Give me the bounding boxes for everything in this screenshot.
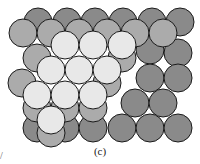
- stray-mark: /: [0, 150, 3, 161]
- sphere-packing-diagram: [0, 0, 200, 164]
- sphere-light: [51, 81, 79, 109]
- sphere-dark: [164, 114, 192, 142]
- sphere-light: [79, 81, 107, 109]
- sphere-light: [37, 106, 65, 134]
- sphere-medium: [9, 19, 37, 47]
- sphere-dark: [164, 64, 192, 92]
- sphere-light: [37, 56, 65, 84]
- sphere-dark: [136, 114, 164, 142]
- sphere-light: [79, 31, 107, 59]
- figure-caption: (c): [88, 145, 112, 157]
- sphere-light: [108, 31, 136, 59]
- sphere-dark: [121, 89, 149, 117]
- sphere-light: [65, 56, 93, 84]
- sphere-dark: [149, 89, 177, 117]
- sphere-dark: [136, 64, 164, 92]
- sphere-medium: [149, 19, 177, 47]
- sphere-dark: [108, 114, 136, 142]
- sphere-light: [93, 56, 121, 84]
- sphere-light: [23, 81, 51, 109]
- sphere-light: [51, 31, 79, 59]
